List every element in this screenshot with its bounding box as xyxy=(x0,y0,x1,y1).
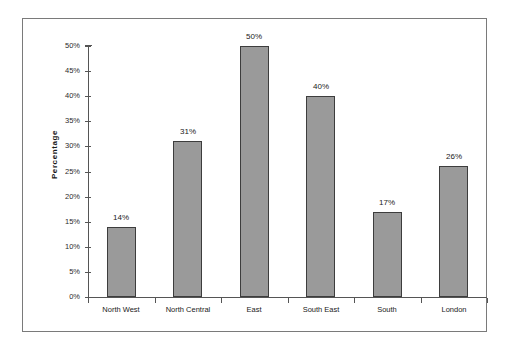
x-tick-mark xyxy=(288,298,289,303)
bar-value-label: 17% xyxy=(357,199,417,207)
y-tick-label: 15% xyxy=(46,218,80,226)
y-tick-mark xyxy=(85,172,91,173)
x-tick-mark xyxy=(487,298,488,303)
bar-value-label: 14% xyxy=(91,214,151,222)
bar-value-label: 31% xyxy=(158,128,218,136)
bar[interactable] xyxy=(107,227,136,297)
y-tick-mark xyxy=(85,197,91,198)
x-tick-mark xyxy=(155,298,156,303)
y-tick-mark xyxy=(85,71,91,72)
bar[interactable] xyxy=(306,96,335,297)
x-tick-mark xyxy=(88,298,89,303)
bar-value-label: 50% xyxy=(224,33,284,41)
y-tick-label: 20% xyxy=(46,193,80,201)
x-tick-mark xyxy=(221,298,222,303)
y-tick-mark xyxy=(85,96,91,97)
y-tick-mark xyxy=(85,247,91,248)
bar-value-label: 26% xyxy=(424,153,484,161)
bar[interactable] xyxy=(373,212,402,297)
x-tick-mark xyxy=(421,298,422,303)
y-tick-label: 40% xyxy=(46,92,80,100)
x-tick-mark xyxy=(354,298,355,303)
bar-chart: Percentage 0%5%10%15%20%25%30%35%40%45%5… xyxy=(0,0,509,349)
y-tick-label: 45% xyxy=(46,67,80,75)
y-tick-mark xyxy=(85,272,91,273)
y-tick-mark xyxy=(85,121,91,122)
y-tick-label: 35% xyxy=(46,117,80,125)
y-tick-label: 5% xyxy=(46,268,80,276)
x-category-label: London xyxy=(409,306,499,314)
y-tick-label: 30% xyxy=(46,142,80,150)
y-tick-label: 25% xyxy=(46,168,80,176)
y-tick-label: 50% xyxy=(46,42,80,50)
bar[interactable] xyxy=(439,166,468,297)
y-tick-label: 0% xyxy=(46,293,80,301)
y-tick-label: 10% xyxy=(46,243,80,251)
y-tick-mark xyxy=(85,46,91,47)
y-tick-mark xyxy=(85,146,91,147)
bar-value-label: 40% xyxy=(291,83,351,91)
bar[interactable] xyxy=(240,46,269,297)
bar[interactable] xyxy=(173,141,202,297)
